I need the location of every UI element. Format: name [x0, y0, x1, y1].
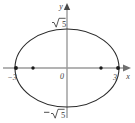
y-axis-label: y: [58, 2, 63, 11]
left-focus-point: [31, 66, 34, 69]
right-vertex-point: [116, 66, 120, 70]
diagram-canvas: y x 0 −3 3 5 5: [0, 0, 135, 123]
y-axis-arrow-icon: [64, 3, 70, 10]
x-tick-label-positive: 3: [112, 73, 117, 82]
y-tick-label-positive: 5: [52, 18, 66, 29]
origin-label: 0: [60, 72, 64, 81]
ellipse-coordinate-diagram: y x 0 −3 3 5 5: [0, 0, 135, 123]
y-tick-label-negative: 5: [44, 109, 65, 120]
x-tick-label-negative: −3: [7, 73, 16, 82]
left-vertex-point: [14, 66, 18, 70]
y-tick-radicand-positive: 5: [62, 19, 66, 29]
x-axis-label: x: [125, 72, 130, 81]
right-focus-point: [99, 66, 102, 69]
x-axis-arrow-icon: [123, 65, 131, 72]
y-tick-radicand-negative: 5: [61, 110, 65, 120]
